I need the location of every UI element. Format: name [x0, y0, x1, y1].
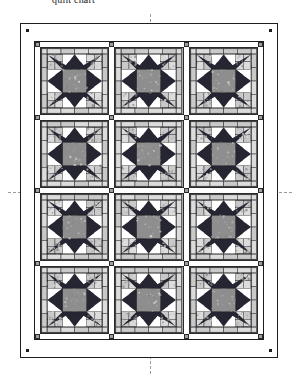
block-r4-c3[interactable]: [189, 266, 258, 334]
block-r3-c3[interactable]: [189, 193, 258, 261]
block-r4-c1[interactable]: [40, 266, 109, 334]
corner-marker-top-left: [26, 29, 29, 32]
corner-marker-bottom-right: [269, 349, 272, 352]
corner-marker-bottom-left: [26, 349, 29, 352]
sashing-strip-horizontal: [40, 334, 109, 339]
quilt-inner-field: [34, 41, 264, 340]
block-r2-c1[interactable]: [40, 120, 109, 188]
block-r1-c3[interactable]: [189, 47, 258, 115]
block-r4-c2[interactable]: [114, 266, 183, 334]
sashing-strip-horizontal: [114, 334, 183, 339]
block-r3-c1[interactable]: [40, 193, 109, 261]
sashing-strip-vertical: [258, 266, 263, 334]
block-grid: [35, 42, 263, 339]
block-r1-c1[interactable]: [40, 47, 109, 115]
sashing-strip-vertical: [258, 120, 263, 188]
block-r2-c2[interactable]: [114, 120, 183, 188]
block-r1-c2[interactable]: [114, 47, 183, 115]
caption-text: quilt chart: [52, 0, 252, 6]
block-r2-c3[interactable]: [189, 120, 258, 188]
sashing-strip-vertical: [258, 47, 263, 115]
sashing-strip-vertical: [258, 193, 263, 261]
sashing-cornerstone: [258, 334, 263, 339]
block-r3-c2[interactable]: [114, 193, 183, 261]
corner-marker-top-right: [269, 29, 272, 32]
sashing-strip-horizontal: [189, 334, 258, 339]
quilt-diagram-canvas: quilt chart: [0, 0, 300, 381]
quilt-outer-border: [20, 23, 278, 358]
